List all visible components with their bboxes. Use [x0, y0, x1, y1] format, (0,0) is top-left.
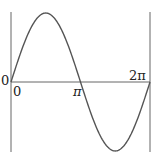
x-pi-label: π [73, 85, 82, 98]
y-zero-label: 0 [1, 74, 9, 87]
x-2pi-label: 2π [129, 69, 146, 82]
x-zero-label: 0 [13, 85, 21, 98]
